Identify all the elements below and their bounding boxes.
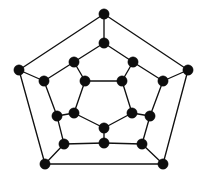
graph-vertex-outer-left	[14, 65, 24, 75]
graph-vertex-outer-bottom-right	[158, 159, 168, 169]
figure-root	[0, 0, 206, 180]
graph-vertex-inner-upper-left	[80, 76, 90, 86]
graph-vertex-inner-right	[127, 108, 137, 118]
graph-vertex-inner-bottom	[99, 123, 109, 133]
graph-vertex-outer-top	[99, 9, 109, 19]
graph-vertex-inner-left	[69, 108, 79, 118]
graph-vertex-outer-right	[183, 65, 193, 75]
graph-vertex-ring2-right	[158, 76, 168, 86]
graph-vertex-inner-upper-right	[117, 76, 127, 86]
graph-vertex-ring3-upper-left	[69, 57, 79, 67]
graph-vertex-ring2-bottom-right	[137, 139, 147, 149]
graph-vertex-ring2-bottom-left	[59, 139, 69, 149]
graph-vertex-ring3-bottom	[99, 138, 109, 148]
graph-vertex-ring2-left	[39, 76, 49, 86]
figure-background	[0, 0, 206, 180]
graph-vertex-outer-bottom-left	[40, 159, 50, 169]
dodecahedral-graph-figure	[0, 0, 206, 180]
graph-vertex-ring3-upper-right	[128, 57, 138, 67]
graph-vertex-ring2-top	[99, 38, 109, 48]
graph-vertex-ring3-left	[52, 111, 62, 121]
graph-vertex-ring3-right	[145, 111, 155, 121]
